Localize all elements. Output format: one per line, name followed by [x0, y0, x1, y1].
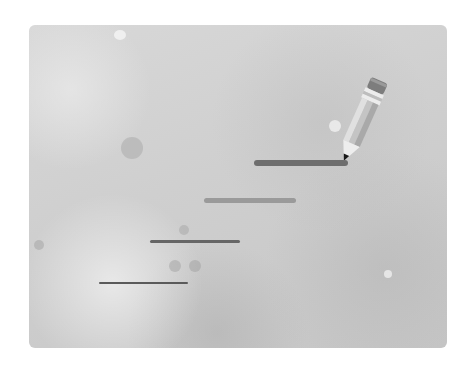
stroke-medium-thick [204, 198, 296, 203]
texture-spot [384, 270, 392, 278]
texture-spot [121, 137, 143, 159]
stroke-thin [99, 282, 188, 284]
pencil-icon [325, 72, 395, 172]
texture-spot [179, 225, 189, 235]
texture-spot [114, 30, 126, 40]
texture-spot [169, 260, 181, 272]
stroke-medium [150, 240, 240, 243]
texture-spot [34, 240, 44, 250]
texture-spot [189, 260, 201, 272]
